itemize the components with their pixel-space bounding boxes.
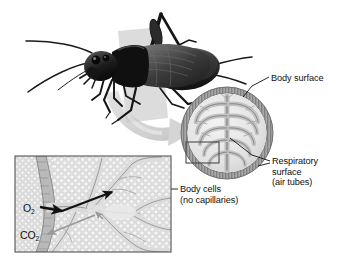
label-oxygen: O2	[23, 203, 35, 216]
label-carbon-dioxide: CO2	[20, 230, 39, 243]
label-oxygen-text: O	[23, 202, 31, 214]
label-body-cells: Body cells (no capillaries)	[180, 184, 238, 205]
label-respiratory-surface: Respiratory surface (air tubes)	[272, 156, 318, 188]
label-body-cells-line1: Body cells	[180, 184, 238, 195]
label-carbon-dioxide-text: CO	[20, 229, 36, 241]
label-body-surface: Body surface	[271, 73, 323, 84]
label-respiratory-line1: Respiratory	[272, 156, 318, 167]
label-body-cells-line2: (no capillaries)	[180, 195, 238, 206]
label-oxygen-subscript: 2	[31, 208, 35, 215]
label-carbon-dioxide-subscript: 2	[36, 235, 40, 242]
body-cross-section	[181, 87, 273, 179]
label-respiratory-line2: surface	[272, 167, 318, 178]
label-respiratory-line3: (air tubes)	[272, 177, 318, 188]
respiration-diagram	[0, 0, 344, 261]
